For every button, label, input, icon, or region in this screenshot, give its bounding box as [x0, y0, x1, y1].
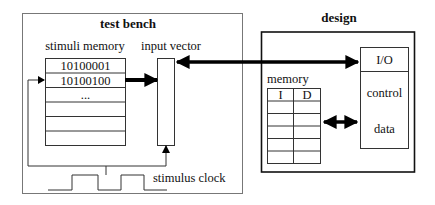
- stimulus-clock-waveform: [48, 175, 167, 190]
- design-memory-header-i: I: [278, 88, 282, 102]
- diagram-canvas: test bench stimuli memory input vector 1…: [0, 0, 435, 205]
- io-block: I/O control data: [361, 48, 409, 149]
- stimuli-row: 10100100: [61, 74, 111, 88]
- test-bench: test bench stimuli memory input vector 1…: [23, 14, 243, 194]
- design-title: design: [321, 10, 357, 25]
- design-memory-table: I D: [268, 88, 321, 164]
- io-label: I/O: [376, 53, 393, 67]
- stimuli-row: ...: [81, 88, 90, 102]
- stimulus-clock-label: stimulus clock: [153, 171, 226, 185]
- input-vector-register: [158, 59, 175, 146]
- design: design memory I D I/O control data: [262, 10, 415, 172]
- input-vector-label: input vector: [141, 39, 202, 53]
- test-bench-title: test bench: [100, 16, 157, 31]
- stimuli-memory-table: 1010000110100100...: [46, 59, 126, 146]
- design-memory-label: memory: [267, 72, 309, 86]
- design-memory-header-d: D: [302, 88, 311, 102]
- data-label: data: [374, 122, 395, 136]
- stimuli-row: 10100001: [61, 59, 111, 73]
- input-vector-clock-arrowhead: [162, 145, 170, 153]
- control-label: control: [367, 86, 403, 100]
- stimuli-memory-label: stimuli memory: [45, 39, 125, 53]
- memory-pointer-arrowhead: [38, 76, 45, 84]
- clock-feedback-line: [28, 80, 166, 166]
